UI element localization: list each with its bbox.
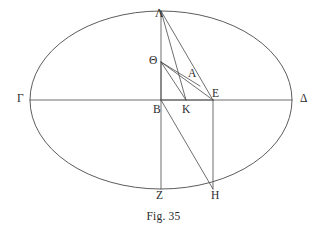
point-label-gamma: Γ xyxy=(17,93,24,105)
chord-lambda-e xyxy=(161,11,213,100)
point-label-theta: Θ xyxy=(149,55,157,67)
point-label-e: E xyxy=(212,88,219,100)
chord-lambda-k xyxy=(161,11,186,100)
figure-caption: Fig. 35 xyxy=(0,210,327,222)
point-label-delta: Δ xyxy=(300,93,307,105)
geometry-diagram xyxy=(0,0,327,237)
point-label-k: K xyxy=(182,104,190,116)
point-label-b: B xyxy=(153,104,161,116)
chord-theta-e xyxy=(161,62,213,100)
point-label-lambda: Λ xyxy=(155,8,163,20)
point-label-z: Z xyxy=(156,190,163,202)
segments-layer xyxy=(30,11,292,189)
figure-35: ΛΘAΓΔEBKZH Fig. 35 xyxy=(0,0,327,237)
point-label-a: A xyxy=(188,68,196,80)
chord-theta-k xyxy=(161,62,186,100)
point-label-h: H xyxy=(211,190,219,202)
